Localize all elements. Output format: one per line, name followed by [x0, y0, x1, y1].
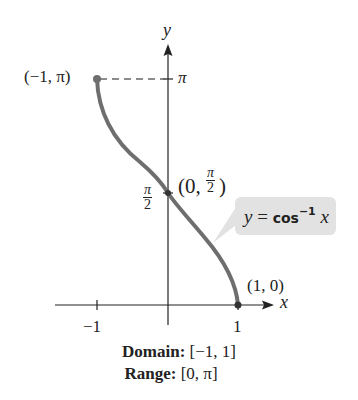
point-label-1-0: (1, 0) [247, 276, 284, 296]
point-1-0 [235, 302, 242, 309]
range-value: [0, π] [176, 364, 217, 383]
point-0-pihalf [165, 190, 171, 196]
point-label-neg1-pi: (−1, π) [24, 67, 71, 87]
y-tick-label-pi: π [178, 68, 187, 88]
point-neg1-pi [93, 75, 101, 83]
domain-value: [−1, 1] [185, 342, 236, 361]
function-label: y = cos−1 x [244, 205, 329, 228]
y-tick-label-pi-half: π 2 [143, 183, 152, 212]
range-label: Range: [124, 364, 176, 383]
point-label-0-pihalf-open: (0, [178, 174, 201, 199]
point-label-0-pihalf-close: ) [219, 174, 226, 199]
x-tick-label-neg1: −1 [83, 317, 101, 337]
x-tick-label-1: 1 [233, 317, 242, 337]
callout-pointer [213, 207, 236, 243]
range-caption: Range: [0, π] [0, 364, 350, 384]
domain-label: Domain: [122, 342, 185, 361]
y-axis-label: y [163, 20, 171, 41]
point-label-0-pihalf-frac: π 2 [206, 166, 215, 195]
domain-caption: Domain: [−1, 1] [0, 342, 358, 362]
